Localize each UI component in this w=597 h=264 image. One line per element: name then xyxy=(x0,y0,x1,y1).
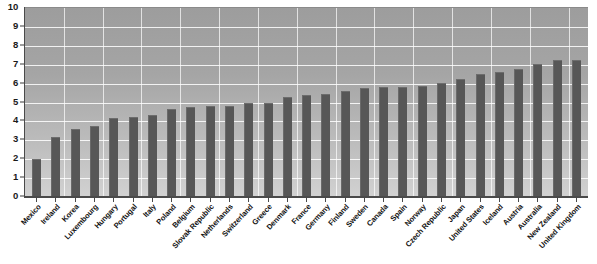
bar-slot xyxy=(336,8,355,197)
bar-slot xyxy=(239,8,258,197)
x-axis-label-slot: Switzerland xyxy=(239,202,258,264)
y-axis-tick-label: 9 xyxy=(13,21,18,31)
bar xyxy=(71,129,80,197)
y-axis-tick-label: 10 xyxy=(8,2,18,12)
x-axis-label-slot: Canada xyxy=(374,202,393,264)
bar xyxy=(186,107,195,197)
plot-area xyxy=(25,7,588,197)
bar-slot xyxy=(278,8,297,197)
x-axis-label-slot: Germany xyxy=(316,202,335,264)
y-axis-tick-label: 6 xyxy=(13,78,18,88)
x-axis-label-slot: Austria xyxy=(509,202,528,264)
y-axis-tick-label: 5 xyxy=(13,97,18,107)
bar xyxy=(264,103,273,198)
x-axis-label-slot: Poland xyxy=(162,202,181,264)
bar xyxy=(225,106,234,197)
x-axis-label-slot: Luxembourg xyxy=(85,202,104,264)
y-axis-tick-label: 7 xyxy=(13,59,18,69)
bar xyxy=(90,126,99,197)
bar-slot xyxy=(413,8,432,197)
bar xyxy=(148,115,157,197)
y-axis-tick-label: 4 xyxy=(13,116,18,126)
bar-slot xyxy=(46,8,65,197)
bar-slot xyxy=(297,8,316,197)
x-axis-label-slot: Hungary xyxy=(104,202,123,264)
bar-slot xyxy=(162,8,181,197)
x-axis-labels: MexicoIrelandKoreaLuxembourgHungaryPortu… xyxy=(25,202,588,264)
x-axis-label-slot: United States xyxy=(470,202,489,264)
bar-slot xyxy=(470,8,489,197)
bar-slot xyxy=(509,8,528,197)
x-axis-label-slot: Portugal xyxy=(123,202,142,264)
x-axis-label: Mexico xyxy=(19,203,42,227)
bar-slot xyxy=(490,8,509,197)
y-axis: 109876543210 xyxy=(0,0,20,203)
bar xyxy=(32,159,41,197)
bar xyxy=(514,69,523,197)
bar xyxy=(437,83,446,197)
bar-slot xyxy=(374,8,393,197)
y-axis-tick-label: 1 xyxy=(13,172,18,182)
bar-slot xyxy=(27,8,46,197)
bar-slot xyxy=(104,8,123,197)
bar xyxy=(456,79,465,197)
bar xyxy=(302,95,311,197)
bar xyxy=(360,88,369,197)
x-axis-label-slot: Mexico xyxy=(27,202,46,264)
bar-slot xyxy=(528,8,547,197)
bar xyxy=(321,94,330,197)
bar-slot xyxy=(66,8,85,197)
bar-slot xyxy=(432,8,451,197)
x-axis-label-slot: Denmark xyxy=(278,202,297,264)
x-axis-label-slot: Spain xyxy=(393,202,412,264)
bar-chart: 109876543210 MexicoIrelandKoreaLuxembour… xyxy=(0,0,597,264)
bar-slot xyxy=(123,8,142,197)
bar-slot xyxy=(258,8,277,197)
x-axis-label-slot: Sweden xyxy=(355,202,374,264)
x-axis-label: Italy xyxy=(142,203,158,219)
x-axis-label-slot: Finland xyxy=(336,202,355,264)
x-axis-label-slot: Iceland xyxy=(490,202,509,264)
x-axis-label-slot: United Kingdom xyxy=(567,202,586,264)
bar xyxy=(341,91,350,197)
bar-slot xyxy=(393,8,412,197)
bar xyxy=(379,87,388,197)
y-axis-tick-label: 8 xyxy=(13,40,18,50)
bar xyxy=(495,72,504,197)
bar-slot xyxy=(316,8,335,197)
bar xyxy=(476,74,485,197)
bar xyxy=(398,87,407,197)
bar xyxy=(167,109,176,197)
bar-series xyxy=(25,8,588,197)
bar xyxy=(109,118,118,197)
x-axis-label-slot: Italy xyxy=(143,202,162,264)
bar-slot xyxy=(143,8,162,197)
bar xyxy=(533,64,542,197)
bar-slot xyxy=(548,8,567,197)
bar xyxy=(283,97,292,197)
bar-slot xyxy=(355,8,374,197)
bar xyxy=(206,106,215,197)
x-axis-label-slot: France xyxy=(297,202,316,264)
bar-slot xyxy=(451,8,470,197)
x-axis-label-slot: Greece xyxy=(258,202,277,264)
bar-slot xyxy=(220,8,239,197)
bar xyxy=(572,60,581,197)
bar xyxy=(418,86,427,198)
y-axis-tick-label: 3 xyxy=(13,135,18,145)
bar xyxy=(244,103,253,197)
y-axis-tick-label: 0 xyxy=(13,191,18,201)
y-axis-tick-label: 2 xyxy=(13,153,18,163)
bar xyxy=(129,117,138,197)
bar-slot xyxy=(85,8,104,197)
bar xyxy=(51,137,60,197)
x-axis-label-slot: Ireland xyxy=(46,202,65,264)
bar xyxy=(553,60,562,197)
x-axis-label-slot: Czech Republic xyxy=(432,202,451,264)
bar-slot xyxy=(201,8,220,197)
bar-slot xyxy=(181,8,200,197)
bar-slot xyxy=(567,8,586,197)
